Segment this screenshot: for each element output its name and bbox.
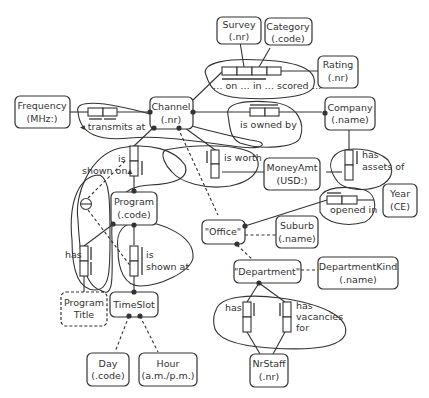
svg-text:Program: Program bbox=[114, 196, 154, 207]
svg-text:(.nr): (.nr) bbox=[229, 31, 249, 42]
svg-text:(a.m./p.m.): (a.m./p.m.) bbox=[141, 370, 194, 381]
reading-worth: is worth bbox=[224, 152, 262, 163]
svg-text:Hour: Hour bbox=[157, 358, 180, 369]
svg-text:Category: Category bbox=[266, 21, 310, 32]
svg-text:(.nr): (.nr) bbox=[259, 371, 279, 382]
reading-opened: opened in bbox=[330, 204, 377, 215]
svg-text:Suburb: Suburb bbox=[280, 220, 314, 231]
svg-text:Survey: Survey bbox=[222, 19, 255, 30]
entity-category[interactable]: Category (.code) bbox=[265, 18, 312, 45]
svg-text:(USD:): (USD:) bbox=[277, 175, 308, 186]
entity-program[interactable]: Program (.code) bbox=[111, 192, 157, 225]
svg-text:TimeSlot: TimeSlot bbox=[112, 299, 155, 310]
svg-text:(.name): (.name) bbox=[339, 274, 376, 285]
reading-transmits: ◂ transmits at bbox=[80, 121, 146, 132]
entity-rating[interactable]: Rating (.nr) bbox=[318, 56, 358, 88]
orm-diagram: Survey (.nr) Category (.code) Rating (.n… bbox=[0, 0, 429, 398]
svg-text:(.name): (.name) bbox=[278, 233, 315, 244]
svg-text:MoneyAmt: MoneyAmt bbox=[267, 162, 318, 173]
svg-text:Frequency: Frequency bbox=[17, 100, 66, 111]
reading-dept-has: has bbox=[225, 302, 242, 313]
entity-moneyamt[interactable]: MoneyAmt (USD:) bbox=[264, 158, 320, 190]
svg-text:Program: Program bbox=[64, 297, 104, 308]
svg-text:(.code): (.code) bbox=[117, 209, 150, 220]
entity-program-title[interactable]: Program Title bbox=[61, 292, 107, 326]
svg-text:Title: Title bbox=[73, 309, 95, 320]
entity-frequency[interactable]: Frequency (MHz:) bbox=[15, 96, 70, 128]
svg-text:(.name): (.name) bbox=[331, 114, 368, 125]
svg-text:Day: Day bbox=[99, 358, 118, 369]
svg-text:"Department": "Department" bbox=[234, 266, 300, 277]
reading-shownat-2: shown at bbox=[146, 261, 189, 272]
blob-shownat bbox=[117, 222, 193, 286]
reading-assets-2: assets of bbox=[362, 161, 405, 172]
entity-department[interactable]: "Department" bbox=[234, 260, 301, 283]
entity-company[interactable]: Company (.name) bbox=[325, 97, 375, 130]
entity-departmentkind[interactable]: DepartmentKind (.name) bbox=[318, 257, 398, 289]
svg-text:Company: Company bbox=[327, 102, 373, 113]
entity-suburb[interactable]: Suburb (.name) bbox=[276, 216, 318, 248]
reading-vacancies-3: for bbox=[296, 322, 309, 333]
entity-year[interactable]: Year (CE) bbox=[383, 184, 417, 217]
svg-text:"Office": "Office" bbox=[205, 226, 241, 237]
reading-assets-1: has bbox=[362, 149, 379, 160]
svg-text:(.nr): (.nr) bbox=[328, 72, 348, 83]
svg-text:Rating: Rating bbox=[323, 59, 354, 70]
entity-day[interactable]: Day (.code) bbox=[87, 353, 129, 386]
entity-nrstaff[interactable]: NrStaff (.nr) bbox=[250, 354, 288, 387]
svg-text:NrStaff: NrStaff bbox=[252, 358, 286, 369]
exclusion-constraint-icon bbox=[81, 199, 92, 210]
entity-timeslot[interactable]: TimeSlot bbox=[110, 292, 158, 317]
reading-shownat-1: is bbox=[146, 249, 154, 260]
reading-title: has bbox=[65, 249, 82, 260]
entity-hour[interactable]: Hour (a.m./p.m.) bbox=[139, 353, 197, 386]
svg-text:(.code): (.code) bbox=[271, 33, 304, 44]
svg-text:DepartmentKind: DepartmentKind bbox=[319, 261, 397, 272]
svg-text:(CE): (CE) bbox=[390, 201, 410, 212]
reading-shownon-1: is bbox=[118, 153, 126, 164]
svg-text:(.code): (.code) bbox=[91, 370, 124, 381]
reading-vacancies-2: vacancies bbox=[296, 311, 343, 322]
reading-scored: … on … in … scored … bbox=[213, 80, 321, 91]
svg-text:(MHz:): (MHz:) bbox=[27, 113, 58, 124]
svg-text:(.nr): (.nr) bbox=[161, 114, 181, 125]
entity-channel[interactable]: Channel (.nr) bbox=[150, 97, 193, 129]
entity-survey[interactable]: Survey (.nr) bbox=[217, 17, 261, 44]
reading-shownon-2: shown on▴ bbox=[82, 165, 132, 176]
entity-office[interactable]: "Office" bbox=[202, 220, 245, 244]
svg-text:Year: Year bbox=[389, 188, 410, 199]
reading-vacancies-1: has bbox=[296, 300, 313, 311]
svg-text:Channel: Channel bbox=[151, 101, 190, 112]
reading-owned: is owned by bbox=[240, 119, 297, 130]
